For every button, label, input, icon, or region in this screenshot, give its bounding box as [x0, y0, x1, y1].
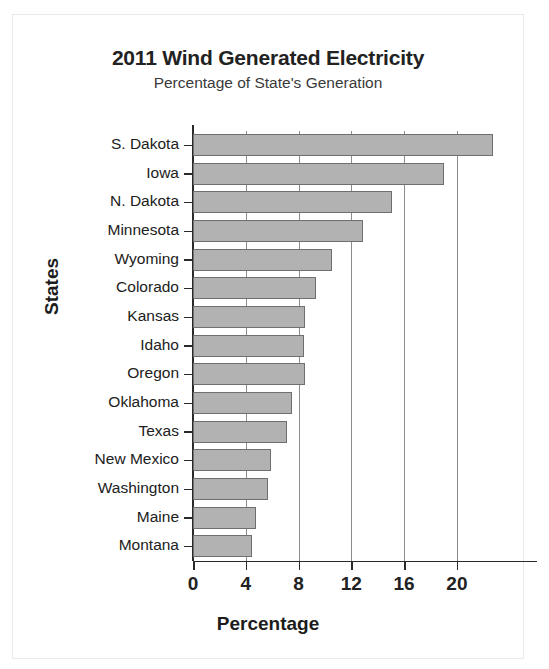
bar-row: Idaho — [193, 332, 511, 361]
bar — [193, 163, 444, 185]
bar — [193, 220, 363, 242]
bar — [193, 134, 493, 156]
y-axis-tick — [184, 202, 193, 204]
y-axis-tick — [184, 231, 193, 233]
y-axis-tick-label: Iowa — [146, 164, 179, 182]
bar-row: New Mexico — [193, 446, 511, 475]
y-axis-tick — [184, 489, 193, 491]
bar — [193, 535, 252, 557]
y-axis-tick — [184, 259, 193, 261]
bar-row: Iowa — [193, 160, 511, 189]
bar-row: Kansas — [193, 303, 511, 332]
bar-row: Colorado — [193, 274, 511, 303]
y-axis-tick-label: Texas — [139, 422, 180, 440]
x-axis-tick-label: 12 — [341, 573, 362, 595]
y-axis-tick-label: Oregon — [127, 364, 179, 382]
bar-row: S. Dakota — [193, 131, 511, 160]
y-axis-tick-label: Maine — [137, 508, 179, 526]
bar — [193, 306, 305, 328]
x-axis-tick-label: 0 — [188, 573, 199, 595]
chart-title: 2011 Wind Generated Electricity — [13, 46, 523, 70]
y-axis-tick — [184, 317, 193, 319]
chart-card: 2011 Wind Generated Electricity Percenta… — [12, 14, 524, 659]
x-axis-tick — [404, 561, 406, 570]
bar — [193, 191, 392, 213]
y-axis-tick-label: S. Dakota — [111, 135, 179, 153]
y-axis-tick-label: Colorado — [116, 278, 179, 296]
y-axis-tick-label: Idaho — [140, 336, 179, 354]
bar — [193, 335, 304, 357]
bar-row: N. Dakota — [193, 188, 511, 217]
bar — [193, 449, 271, 471]
y-axis-tick-label: New Mexico — [95, 450, 179, 468]
y-axis-tick-label: Wyoming — [115, 250, 179, 268]
bar-row: Wyoming — [193, 246, 511, 275]
y-axis-tick-label: Oklahoma — [108, 393, 179, 411]
x-axis-tick-label: 16 — [394, 573, 415, 595]
bar-row: Oregon — [193, 360, 511, 389]
bar — [193, 277, 316, 299]
y-axis-title: States — [41, 258, 63, 315]
bar-row: Minnesota — [193, 217, 511, 246]
y-axis-tick-label: Minnesota — [107, 221, 179, 239]
y-axis-tick — [184, 403, 193, 405]
x-axis-title: Percentage — [13, 613, 523, 635]
x-axis-tick — [351, 561, 353, 570]
x-axis-tick-label: 8 — [293, 573, 304, 595]
bar-row: Washington — [193, 475, 511, 504]
y-axis-tick — [184, 517, 193, 519]
bar — [193, 507, 256, 529]
bar-row: Oklahoma — [193, 389, 511, 418]
x-axis-tick-label: 4 — [240, 573, 251, 595]
bar — [193, 421, 287, 443]
plot-area: S. DakotaIowaN. DakotaMinnesotaWyomingCo… — [193, 131, 511, 561]
y-axis-tick — [184, 173, 193, 175]
x-axis-tick-label: 20 — [446, 573, 467, 595]
y-axis-tick-label: Washington — [98, 479, 179, 497]
y-axis-tick-label: Montana — [119, 536, 179, 554]
y-axis-tick — [184, 145, 193, 147]
y-axis-tick — [184, 431, 193, 433]
bar — [193, 249, 332, 271]
bar-row: Texas — [193, 418, 511, 447]
x-axis-tick — [457, 561, 459, 570]
x-axis-tick — [193, 561, 195, 570]
bar-row: Maine — [193, 504, 511, 533]
y-axis-tick — [184, 374, 193, 376]
y-axis-tick-label: Kansas — [127, 307, 179, 325]
y-axis-tick — [184, 345, 193, 347]
y-axis-tick — [184, 288, 193, 290]
x-axis-tick — [246, 561, 248, 570]
y-axis-tick — [184, 460, 193, 462]
bar — [193, 392, 292, 414]
y-axis-tick-label: N. Dakota — [110, 192, 179, 210]
chart-subtitle: Percentage of State's Generation — [13, 74, 523, 92]
bar-row: Montana — [193, 532, 511, 561]
y-axis-tick — [184, 546, 193, 548]
x-axis-tick — [299, 561, 301, 570]
bar — [193, 478, 268, 500]
bar — [193, 363, 305, 385]
